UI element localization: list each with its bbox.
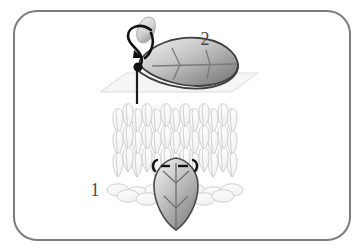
step-label-2: 2	[201, 29, 210, 49]
step-label-1: 1	[91, 180, 100, 200]
illustration-canvas: 1	[0, 0, 362, 251]
leaf-motif	[154, 158, 198, 230]
craft-instruction-diagram: 1	[0, 0, 362, 251]
sewing-needle	[133, 14, 159, 45]
lower-panel: 1	[91, 104, 244, 230]
thread-knot	[133, 62, 142, 71]
upper-panel: 2	[100, 14, 258, 104]
